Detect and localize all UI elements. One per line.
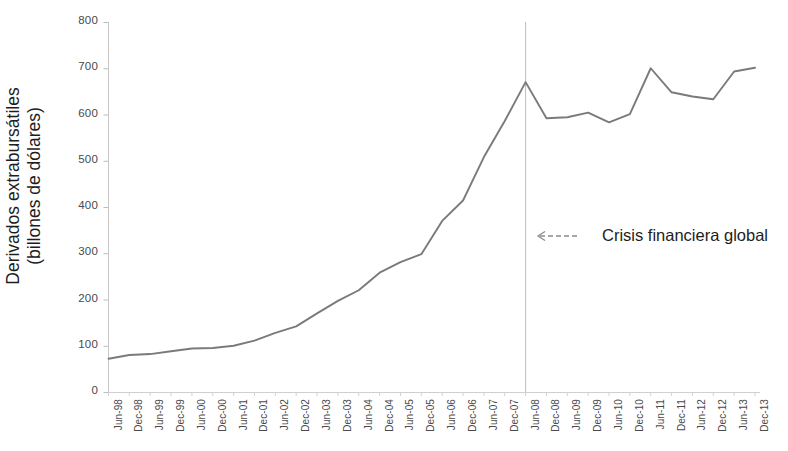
x-tick-label: Dec-05 bbox=[425, 399, 436, 451]
x-tick-label: Jun-00 bbox=[196, 399, 207, 451]
y-tick-label: 200 bbox=[58, 292, 98, 304]
x-tick-label: Jun-09 bbox=[571, 399, 582, 451]
chart-container: Derivados extrabursátiles (billones de d… bbox=[0, 0, 788, 451]
x-tick-label: Jun-08 bbox=[530, 399, 541, 451]
y-axis-title: Derivados extrabursátiles (billones de d… bbox=[0, 16, 52, 356]
y-tick-label: 0 bbox=[58, 384, 98, 396]
left-arrow-icon bbox=[534, 229, 582, 243]
x-tick-label: Jun-99 bbox=[154, 399, 165, 451]
x-tick-label: Dec-11 bbox=[676, 399, 687, 451]
x-tick-label: Jun-07 bbox=[488, 399, 499, 451]
y-axis-title-line-2: (billones de dólares) bbox=[24, 107, 45, 265]
y-tick-label: 700 bbox=[58, 60, 98, 72]
y-tick-label: 600 bbox=[58, 107, 98, 119]
x-tick-label: Dec-02 bbox=[300, 399, 311, 451]
y-tick-label: 800 bbox=[58, 14, 98, 26]
y-tick-marks bbox=[104, 23, 109, 393]
x-tick-label: Jun-04 bbox=[363, 399, 374, 451]
x-tick-label: Jun-01 bbox=[238, 399, 249, 451]
x-tick-label: Dec-08 bbox=[550, 399, 561, 451]
x-tick-label: Jun-12 bbox=[696, 399, 707, 451]
x-tick-label: Jun-05 bbox=[404, 399, 415, 451]
x-tick-label: Dec-98 bbox=[133, 399, 144, 451]
x-tick-label: Dec-09 bbox=[592, 399, 603, 451]
x-tick-label: Dec-03 bbox=[342, 399, 353, 451]
x-tick-label: Dec-01 bbox=[258, 399, 269, 451]
x-tick-label: Jun-98 bbox=[113, 399, 124, 451]
y-tick-label: 300 bbox=[58, 245, 98, 257]
x-tick-label: Dec-07 bbox=[509, 399, 520, 451]
x-tick-label: Dec-04 bbox=[384, 399, 395, 451]
x-tick-label: Jun-06 bbox=[446, 399, 457, 451]
x-tick-label: Jun-11 bbox=[655, 399, 666, 451]
x-tick-label: Dec-10 bbox=[634, 399, 645, 451]
y-tick-label: 400 bbox=[58, 199, 98, 211]
x-tick-label: Dec-12 bbox=[717, 399, 728, 451]
y-axis-title-line-1: Derivados extrabursátiles bbox=[3, 87, 24, 284]
y-tick-label: 100 bbox=[58, 338, 98, 350]
series-line-derivados bbox=[109, 68, 756, 359]
y-tick-label: 500 bbox=[58, 153, 98, 165]
x-tick-label: Dec-00 bbox=[217, 399, 228, 451]
x-tick-label: Dec-13 bbox=[759, 399, 770, 451]
x-tick-label: Dec-06 bbox=[467, 399, 478, 451]
x-tick-label: Dec-99 bbox=[175, 399, 186, 451]
x-tick-label: Jun-13 bbox=[738, 399, 749, 451]
x-tick-label: Jun-02 bbox=[279, 399, 290, 451]
crisis-annotation-label: Crisis financiera global bbox=[602, 226, 768, 245]
crisis-annotation: Crisis financiera global bbox=[534, 226, 768, 245]
x-tick-label: Jun-10 bbox=[613, 399, 624, 451]
x-tick-label: Jun-03 bbox=[321, 399, 332, 451]
